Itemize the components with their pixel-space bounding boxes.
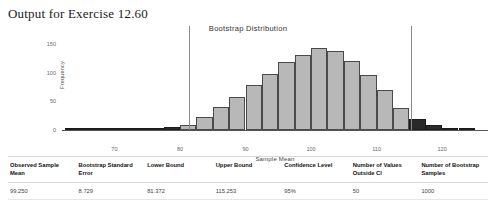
histogram-bar bbox=[229, 97, 245, 130]
header-bootstrap-samples: Number of Bootstrap Samples bbox=[419, 157, 488, 183]
x-axis-tick: 120 bbox=[438, 146, 447, 152]
x-axis-line bbox=[62, 130, 488, 131]
histogram-bar bbox=[377, 90, 393, 130]
histogram-bar bbox=[147, 128, 163, 130]
header-bootstrap-standard-error: Bootstrap Standard Error bbox=[77, 157, 146, 183]
confidence-interval-line bbox=[189, 26, 190, 130]
header-lower-bound: Lower Bound bbox=[145, 157, 214, 183]
header-values-outside-ci: Number of Values Outside CI bbox=[351, 157, 420, 183]
y-axis-label: Frequency bbox=[59, 27, 65, 123]
histogram-bar bbox=[295, 55, 311, 130]
histogram-bar bbox=[131, 128, 147, 130]
histogram-bar bbox=[213, 107, 229, 130]
histogram-bar bbox=[164, 127, 180, 130]
value-observed-sample-mean: 99.250 bbox=[8, 182, 77, 199]
bootstrap-statistics-table: Observed Sample Mean Bootstrap Standard … bbox=[8, 156, 488, 200]
histogram-bar bbox=[344, 61, 360, 130]
histogram-bar bbox=[262, 74, 278, 130]
x-axis-tick: 80 bbox=[177, 146, 183, 152]
chart-title: Bootstrap Distribution bbox=[0, 24, 496, 33]
y-axis-tick: 150 bbox=[47, 41, 56, 47]
histogram-bar bbox=[65, 128, 81, 130]
x-axis-tick: 90 bbox=[242, 146, 248, 152]
table-row: 99.250 8.729 81.372 115.253 95% 50 1000 bbox=[8, 182, 488, 199]
header-observed-sample-mean: Observed Sample Mean bbox=[8, 157, 77, 183]
y-axis-tick: 50 bbox=[50, 98, 56, 104]
histogram-bar bbox=[327, 51, 343, 130]
value-confidence-level: 95% bbox=[282, 182, 351, 199]
value-values-outside-ci: 50 bbox=[351, 182, 420, 199]
page-title: Output for Exercise 12.60 bbox=[8, 6, 148, 22]
value-bootstrap-standard-error: 8.729 bbox=[77, 182, 146, 199]
histogram-bar bbox=[393, 108, 409, 130]
histogram-bar bbox=[311, 48, 327, 130]
histogram-bar bbox=[196, 117, 212, 130]
y-axis-tick: 100 bbox=[47, 70, 56, 76]
histogram-bar bbox=[114, 128, 130, 130]
histogram-bar bbox=[82, 128, 98, 130]
histogram-bar bbox=[360, 75, 376, 130]
bootstrap-distribution-chart: Bootstrap Distribution Frequency Sample … bbox=[0, 24, 496, 150]
y-axis-tick: 0 bbox=[53, 127, 56, 133]
histogram-bar bbox=[98, 128, 114, 130]
x-axis-tick: 110 bbox=[372, 146, 381, 152]
plot-area: Frequency Sample Mean 050100150708090100… bbox=[62, 38, 488, 130]
x-axis-tick: 100 bbox=[306, 146, 315, 152]
histogram-bar bbox=[246, 85, 262, 130]
value-upper-bound: 115.253 bbox=[214, 182, 283, 199]
output-page: Output for Exercise 12.60 Bootstrap Dist… bbox=[0, 0, 496, 206]
histogram-bar bbox=[442, 128, 458, 130]
value-bootstrap-samples: 1000 bbox=[419, 182, 488, 199]
header-confidence-level: Confidence Level bbox=[282, 157, 351, 183]
x-axis-tick: 70 bbox=[111, 146, 117, 152]
histogram-bar bbox=[459, 128, 475, 130]
confidence-interval-line bbox=[411, 26, 412, 130]
table-header-row: Observed Sample Mean Bootstrap Standard … bbox=[8, 157, 488, 183]
histogram-bar bbox=[426, 125, 442, 130]
value-lower-bound: 81.372 bbox=[145, 182, 214, 199]
histogram-bar bbox=[278, 62, 294, 130]
header-upper-bound: Upper Bound bbox=[214, 157, 283, 183]
